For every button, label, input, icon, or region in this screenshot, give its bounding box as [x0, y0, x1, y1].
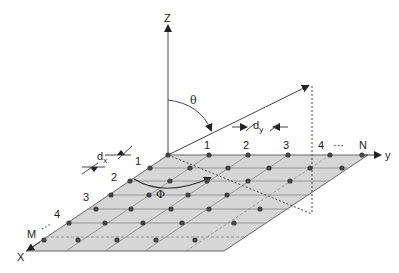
x-index-4: 4	[54, 209, 60, 220]
diagram-canvas	[0, 0, 399, 273]
array-geometry-diagram: Z y X θ Φ dy dx 1 2 3 4 ··· N 1 2 3 4 ··…	[0, 0, 399, 273]
x-index-1: 1	[135, 156, 141, 167]
y-index-ellipsis: ···	[333, 140, 344, 151]
y-index-2: 2	[243, 140, 249, 151]
y-axis-label: y	[385, 150, 391, 161]
dy-label: dy	[253, 120, 263, 134]
y-index-N: N	[359, 140, 367, 151]
z-axis-label: Z	[164, 13, 171, 24]
phi-label: Φ	[156, 189, 165, 200]
y-index-1: 1	[204, 140, 210, 151]
y-index-4: 4	[318, 140, 324, 151]
x-index-3: 3	[83, 192, 89, 203]
x-axis-label: X	[17, 252, 24, 263]
x-index-M: M	[27, 229, 36, 240]
dx-label: dx	[97, 151, 107, 165]
y-index-3: 3	[283, 140, 289, 151]
x-index-2: 2	[111, 172, 117, 183]
theta-label: θ	[190, 95, 197, 106]
